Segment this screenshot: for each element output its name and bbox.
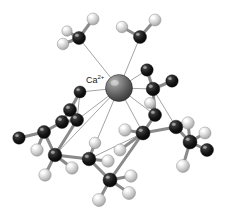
atom-sphere [166,75,178,87]
specular-highlight [168,77,172,80]
specular-highlight [85,155,89,158]
ca-ion-label: Ca2+ [86,74,104,85]
atom-sphere [89,137,101,149]
atom-h [62,26,72,36]
atom-sphere [106,75,133,102]
specular-highlight [201,129,205,132]
specular-highlight [172,123,176,126]
specular-highlight [118,24,121,27]
atom-h [199,127,211,139]
atom-sphere [38,126,51,139]
atom-h [177,160,190,173]
atom-c [82,152,96,166]
atom-c [74,86,86,98]
atom-sphere [145,98,156,109]
atom-c [141,64,153,76]
ca-charge-superscript: 2+ [98,74,105,80]
atom-h [31,144,43,156]
atom-c [73,32,86,45]
atom-sphere [39,169,51,181]
atom-h [66,162,78,174]
atom-h [93,194,106,207]
atom-sphere [182,117,194,129]
specular-highlight [143,66,147,69]
atom-c [149,109,162,122]
specular-highlight [151,16,155,19]
atom-sphere [103,173,117,187]
atom-sphere [48,148,62,162]
specular-highlight [58,118,62,121]
specular-highlight [68,164,72,167]
atom-sphere [199,127,211,139]
atom-sphere [13,132,25,144]
atom-c [13,132,25,144]
atom-sphere [183,135,197,149]
atom-h [125,170,137,182]
atom-c [183,135,197,149]
specular-highlight [151,111,155,114]
atom-sphere [134,31,147,44]
specular-highlight [66,106,70,109]
specular-highlight [75,34,79,37]
specular-highlight [111,80,119,86]
atom-h [149,14,161,26]
specular-highlight [147,100,150,102]
atom-sphere [116,21,128,33]
ca-label-text: Ca [86,75,98,85]
atom-ca [106,75,133,102]
specular-highlight [106,176,110,179]
specular-highlight [179,162,183,165]
specular-highlight [59,41,62,44]
specular-highlight [51,151,55,154]
atom-sphere [149,14,161,26]
atom-sphere [125,170,137,182]
atom-h [182,117,194,129]
specular-highlight [203,146,207,149]
atom-h [119,124,131,136]
atom-sphere [56,116,69,129]
atom-c [169,120,183,134]
specular-highlight [116,146,120,149]
atom-sphere [73,32,86,45]
atom-c [48,148,62,162]
specular-highlight [121,126,125,129]
specular-highlight [33,146,37,149]
atom-h [87,13,99,25]
specular-highlight [64,28,67,30]
atom-h [57,38,69,50]
specular-highlight [95,196,99,199]
specular-highlight [186,138,190,141]
atom-c [146,82,160,96]
atom-sphere [71,114,84,127]
atom-sphere [93,194,106,207]
atom-sphere [66,162,78,174]
atom-c [201,144,214,157]
atom-c [38,126,51,139]
specular-highlight [125,189,129,192]
atom-c [134,31,147,44]
atom-sphere [169,120,183,134]
specular-highlight [73,116,77,119]
atom-sphere [149,109,162,122]
atom-h [114,144,126,156]
specular-highlight [76,88,80,91]
atom-sphere [136,126,150,140]
atom-sphere [123,187,136,200]
specular-highlight [184,119,188,122]
atom-sphere [102,155,114,167]
atom-h [123,187,136,200]
atom-sphere [82,152,96,166]
atom-sphere [57,38,69,50]
atom-h [39,169,51,181]
atom-h [116,21,128,33]
atom-sphere [31,144,43,156]
atom-h [89,137,101,149]
atom-sphere [177,160,190,173]
atom-c [56,116,69,129]
specular-highlight [139,129,143,132]
atom-sphere [146,82,160,96]
atom-sphere [87,13,99,25]
atom-c [136,126,150,140]
specular-highlight [149,85,153,88]
specular-highlight [127,172,131,175]
